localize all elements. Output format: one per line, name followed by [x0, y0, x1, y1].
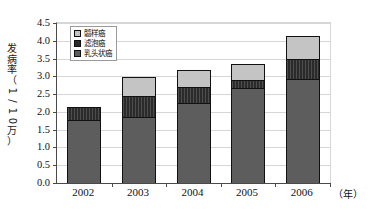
chart-legend: 髓样癌滤泡癌乳头状癌 — [70, 26, 117, 61]
y-axis-tick-label: 4.5 — [37, 17, 50, 28]
legend-item-label: 乳头状癌 — [84, 50, 112, 58]
legend-item[interactable]: 乳头状癌 — [74, 49, 112, 58]
bar-2006[interactable] — [286, 36, 320, 183]
bar-segment[interactable] — [177, 87, 211, 102]
y-axis-tickmark — [53, 165, 57, 166]
legend-swatch-icon — [74, 30, 81, 37]
y-axis-tickmark — [53, 23, 57, 24]
y-axis-tickmark — [53, 112, 57, 113]
incidence-bar-chart: 发病率（1/10万） 4.54.03.53.02.52.01.51.00.50.… — [0, 0, 391, 210]
x-axis-tick-label: 2006 — [291, 186, 313, 198]
y-axis-tick-label: 1.5 — [37, 123, 50, 134]
bar-segment[interactable] — [122, 117, 156, 183]
legend-item-label: 滤泡癌 — [84, 40, 105, 48]
y-axis-title-char: （ — [7, 76, 17, 87]
y-axis-tick-label: 3.0 — [37, 70, 50, 81]
bar-segment[interactable] — [231, 88, 265, 183]
y-axis-tick-label: 4.0 — [37, 34, 50, 45]
y-axis-tickmark — [53, 94, 57, 95]
y-axis-tick-label: 2.5 — [37, 88, 50, 99]
y-axis-tickmark — [53, 130, 57, 131]
bar-segment[interactable] — [286, 79, 320, 183]
x-axis-tick-label: 2002 — [72, 186, 94, 198]
legend-swatch-icon — [74, 50, 81, 57]
gridline — [57, 23, 330, 24]
y-axis-tickmark — [53, 41, 57, 42]
y-axis-tick-label: 0.0 — [37, 177, 50, 188]
y-axis-tickmark — [53, 147, 57, 148]
y-axis-title-char: ） — [7, 137, 17, 148]
bar-segment[interactable] — [177, 103, 211, 183]
bar-segment[interactable] — [286, 36, 320, 59]
legend-swatch-icon — [74, 40, 81, 47]
bar-2004[interactable] — [177, 70, 211, 183]
y-axis-title-char: 发 — [7, 44, 17, 55]
y-axis-tick-label: 2.0 — [37, 105, 50, 116]
legend-item[interactable]: 髓样癌 — [74, 29, 112, 38]
x-axis-unit-label: （年） — [333, 186, 363, 201]
bar-segment[interactable] — [67, 120, 101, 183]
bar-segment[interactable] — [231, 80, 265, 87]
legend-item-label: 髓样癌 — [84, 30, 105, 38]
y-axis-title: 发病率（1/10万） — [2, 44, 22, 174]
y-axis-tickmark — [53, 59, 57, 60]
bar-segment[interactable] — [231, 64, 265, 80]
x-axis-tickmark — [330, 183, 331, 187]
legend-item[interactable]: 滤泡癌 — [74, 39, 112, 48]
y-axis-tick-label: 1.0 — [37, 141, 50, 152]
y-axis-tickmark — [53, 183, 57, 184]
x-axis-tick-label: 2005 — [236, 186, 258, 198]
y-axis-title-char: 0 — [7, 118, 17, 124]
bar-segment[interactable] — [67, 107, 101, 121]
y-axis-tick-labels: 4.54.03.53.02.52.01.51.00.50.0 — [22, 0, 52, 210]
bar-segment[interactable] — [122, 96, 156, 116]
x-axis-tick-labels: 20022003200420052006 — [56, 186, 329, 204]
bar-2003[interactable] — [122, 77, 156, 183]
x-axis-tick-label: 2003 — [127, 186, 149, 198]
bar-segment[interactable] — [286, 59, 320, 79]
x-axis-tick-label: 2004 — [182, 186, 204, 198]
bar-2002[interactable] — [67, 107, 101, 183]
bar-2005[interactable] — [231, 64, 265, 183]
y-axis-tick-label: 3.5 — [37, 52, 50, 63]
y-axis-title-char: 率 — [7, 65, 17, 76]
y-axis-title-char: / — [7, 99, 17, 102]
y-axis-tickmark — [53, 76, 57, 77]
y-axis-tick-label: 0.5 — [37, 159, 50, 170]
bar-segment[interactable] — [122, 77, 156, 97]
y-axis-title-char: 万 — [7, 126, 17, 137]
bar-segment[interactable] — [177, 70, 211, 88]
y-axis-title-char: 1 — [7, 88, 17, 94]
y-axis-title-char: 1 — [7, 108, 17, 114]
